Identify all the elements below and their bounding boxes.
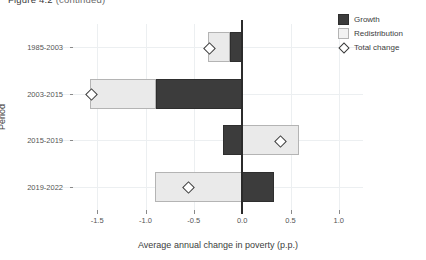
legend-item[interactable]: Growth bbox=[338, 14, 403, 25]
x-tick-mark bbox=[194, 210, 195, 214]
y-tick-label: 2003-2015 bbox=[0, 89, 63, 98]
y-axis-title: Period bbox=[0, 104, 7, 130]
legend-item[interactable]: Total change bbox=[338, 42, 403, 53]
y-tick-label: 2019-2022 bbox=[0, 182, 63, 191]
legend-label: Growth bbox=[354, 15, 380, 24]
chart-figure: Figure 4.2 (continued) -1.5-1.0-0.50.00.… bbox=[0, 0, 426, 260]
x-tick-mark bbox=[339, 210, 340, 214]
bar-row bbox=[73, 79, 363, 109]
y-tick-mark bbox=[70, 47, 74, 48]
bar-row bbox=[73, 172, 363, 202]
x-axis-title: Average annual change in poverty (p.p.) bbox=[73, 240, 363, 250]
x-tick-label: 0.5 bbox=[285, 216, 295, 225]
x-tick-mark bbox=[97, 210, 98, 214]
legend-item[interactable]: Redistribution bbox=[338, 28, 403, 39]
bar-segment-redistribution bbox=[155, 172, 242, 202]
bar-row bbox=[73, 125, 363, 155]
y-tick-mark bbox=[70, 187, 74, 188]
bar-segment-growth bbox=[230, 32, 243, 62]
y-tick-mark bbox=[70, 94, 74, 95]
bar-row bbox=[73, 32, 363, 62]
bar-segment-growth bbox=[223, 125, 242, 155]
legend-swatch-icon bbox=[338, 14, 349, 25]
x-tick-label: 0.0 bbox=[237, 216, 247, 225]
chart-legend: GrowthRedistributionTotal change bbox=[338, 14, 403, 53]
diamond-marker-icon bbox=[338, 42, 349, 53]
plot-area bbox=[73, 24, 363, 210]
x-tick-label: 1.0 bbox=[334, 216, 344, 225]
legend-label: Total change bbox=[354, 43, 399, 52]
x-tick-mark bbox=[291, 210, 292, 214]
x-tick-label: -0.5 bbox=[187, 216, 200, 225]
x-tick-label: -1.0 bbox=[139, 216, 152, 225]
bar-segment-growth bbox=[156, 79, 242, 109]
bar-segment-redistribution bbox=[242, 125, 299, 155]
chart-title-main: Figure 4.2 bbox=[8, 0, 53, 5]
y-tick-label: 1985-2003 bbox=[0, 43, 63, 52]
legend-swatch-icon bbox=[338, 28, 349, 39]
x-tick-mark bbox=[146, 210, 147, 214]
chart-title: Figure 4.2 (continued) bbox=[8, 0, 105, 5]
x-tick-label: -1.5 bbox=[91, 216, 104, 225]
bar-segment-growth bbox=[242, 172, 274, 202]
y-tick-mark bbox=[70, 140, 74, 141]
zero-reference-line bbox=[241, 20, 243, 214]
bar-segment-redistribution bbox=[90, 79, 156, 109]
y-tick-label: 2015-2019 bbox=[0, 136, 63, 145]
legend-label: Redistribution bbox=[354, 29, 403, 38]
chart-title-sub: (continued) bbox=[56, 0, 106, 5]
